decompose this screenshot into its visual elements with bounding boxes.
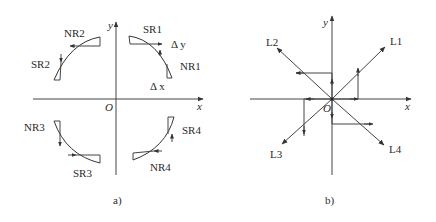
- panel-a-y-label: y: [107, 19, 113, 31]
- label-nr3: NR3: [24, 121, 45, 133]
- panel-b-origin-dot: [330, 97, 333, 100]
- panel-b-caption: b): [325, 194, 335, 207]
- quadrant-3-arcs: [54, 121, 100, 163]
- arc-q1: [129, 36, 172, 78]
- label-nr4: NR4: [150, 161, 171, 173]
- panel-b-origin-label: O: [323, 102, 331, 114]
- panel-a-caption: a): [113, 194, 122, 207]
- arc-q3: [54, 121, 100, 163]
- label-l2: L2: [266, 36, 278, 48]
- label-l4: L4: [389, 143, 402, 155]
- quadrant-1-arcs: [129, 36, 172, 78]
- quadrant-2-arcs: [54, 37, 100, 80]
- label-nr2: NR2: [64, 27, 85, 39]
- label-sr4: SR4: [182, 124, 201, 136]
- panel-a-x-label: x: [196, 100, 202, 112]
- panel-a-origin-label: O: [105, 101, 113, 113]
- label-l1: L1: [390, 35, 402, 47]
- label-sr3: SR3: [73, 167, 92, 179]
- panel-a-circular-interpolation: y x O SR1 Δ y NR1 Δ x NR2 SR2 NR3 SR3 SR…: [24, 19, 203, 207]
- sr1-step: [129, 36, 152, 44]
- label-l3: L3: [270, 148, 283, 160]
- label-sr1: SR1: [143, 23, 162, 35]
- panel-b-y-label: y: [322, 16, 328, 28]
- line-l4: [332, 99, 384, 145]
- panel-b-x-label: x: [404, 100, 410, 112]
- label-delta-x: Δ x: [150, 80, 165, 92]
- label-nr1: NR1: [180, 60, 201, 72]
- panel-b-linear-interpolation: y x O L1 L2 L3 L4 b): [250, 16, 411, 207]
- label-delta-y: Δ y: [171, 38, 186, 50]
- label-sr2: SR2: [31, 58, 50, 70]
- quadrant-4-arcs: [133, 117, 174, 160]
- figure-canvas: y x O SR1 Δ y NR1 Δ x NR2 SR2 NR3 SR3 SR…: [0, 0, 436, 222]
